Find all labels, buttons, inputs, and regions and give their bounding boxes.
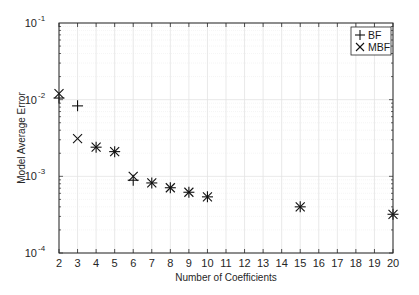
x-tick-label: 2	[56, 257, 62, 269]
x-tick-label: 6	[130, 257, 136, 269]
x-tick-label: 15	[294, 257, 306, 269]
x-tick-label: 12	[238, 257, 250, 269]
x-tick-label: 5	[112, 257, 118, 269]
x-tick-labels: 234567891011121314151617181920	[56, 257, 399, 269]
grid-lines	[59, 23, 393, 253]
y-tick-labels: 10-410-310-210-1	[25, 14, 46, 259]
x-tick-label: 4	[93, 257, 99, 269]
x-tick-label: 10	[201, 257, 213, 269]
y-tick-label: 10	[25, 247, 37, 259]
y-axis-label: Model Average Error	[16, 92, 27, 184]
x-tick-label: 18	[350, 257, 362, 269]
y-tick-exponent: -4	[38, 244, 46, 253]
y-tick-exponent: -3	[38, 167, 46, 176]
x-tick-label: 11	[220, 257, 231, 269]
y-tick-exponent: -2	[38, 91, 46, 100]
data-point-bf	[72, 100, 83, 111]
y-tick-label: 10	[25, 17, 37, 29]
x-tick-label: 8	[167, 257, 173, 269]
x-tick-label: 19	[368, 257, 380, 269]
y-tick-exponent: -1	[38, 14, 46, 23]
legend: BF MBF	[351, 27, 391, 55]
x-tick-label: 13	[257, 257, 269, 269]
x-tick-label: 14	[276, 257, 288, 269]
x-tick-label: 7	[149, 257, 155, 269]
legend-label-mbf: MBF	[368, 41, 390, 53]
x-tick-label: 17	[331, 257, 343, 269]
x-tick-label: 20	[387, 257, 399, 269]
x-tick-label: 3	[74, 257, 80, 269]
x-axis-label: Number of Coefficients	[175, 272, 277, 283]
chart: 234567891011121314151617181920 10-410-31…	[0, 0, 419, 295]
x-tick-label: 9	[186, 257, 192, 269]
x-tick-label: 16	[313, 257, 325, 269]
legend-label-bf: BF	[368, 29, 381, 41]
